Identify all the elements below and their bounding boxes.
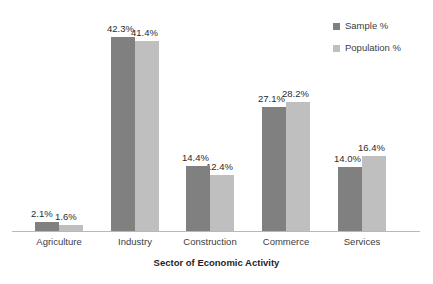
plot-area: 2.1%1.6%42.3%41.4%14.4%12.4%27.1%28.2%14… bbox=[12, 12, 420, 232]
bar-group bbox=[338, 12, 386, 232]
x-tick-label-commerce: Commerce bbox=[263, 236, 309, 247]
bar-services-population[interactable] bbox=[362, 156, 386, 232]
x-axis-title: Sector of Economic Activity bbox=[0, 257, 433, 268]
bar-group bbox=[262, 12, 310, 232]
x-tick-label-services: Services bbox=[344, 236, 380, 247]
bar-industry-population[interactable] bbox=[135, 41, 159, 232]
x-axis-tick-labels: AgricultureIndustryConstructionCommerceS… bbox=[12, 236, 420, 254]
bar-services-sample[interactable] bbox=[338, 167, 362, 232]
bar-chart: Sample % Population % 2.1%1.6%42.3%41.4%… bbox=[0, 0, 433, 284]
x-axis-line bbox=[12, 231, 420, 232]
x-tick-label-industry: Industry bbox=[118, 236, 152, 247]
bars-container bbox=[338, 156, 386, 232]
bar-commerce-sample[interactable] bbox=[262, 107, 286, 232]
bars-container bbox=[262, 102, 310, 232]
bar-commerce-population[interactable] bbox=[286, 102, 310, 232]
bar-construction-sample[interactable] bbox=[186, 166, 210, 232]
bar-group bbox=[186, 12, 234, 232]
bar-industry-sample[interactable] bbox=[111, 37, 135, 232]
bars-container bbox=[186, 166, 234, 232]
bar-construction-population[interactable] bbox=[210, 175, 234, 232]
bars-container bbox=[111, 37, 159, 232]
x-tick-label-agriculture: Agriculture bbox=[36, 236, 81, 247]
bar-group bbox=[35, 12, 83, 232]
bar-group bbox=[111, 12, 159, 232]
x-tick-label-construction: Construction bbox=[183, 236, 236, 247]
